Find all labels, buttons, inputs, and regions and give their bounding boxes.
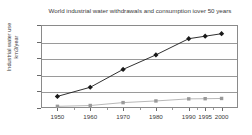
x-tick-mark	[90, 108, 91, 111]
series-layer	[41, 25, 238, 108]
x-tick-label: 2000	[205, 113, 239, 120]
data-point-square	[220, 97, 223, 100]
x-tick-mark	[57, 108, 58, 111]
x-tick-mark	[156, 108, 157, 111]
chart-title: World industrial water withdrawals and c…	[34, 7, 246, 14]
x-tick-mark	[205, 108, 206, 111]
x-tick-label: 1970	[106, 113, 140, 120]
data-point-square	[89, 104, 92, 107]
series-line	[57, 34, 221, 97]
x-tick-label: 1960	[73, 113, 107, 120]
data-point-diamond	[153, 52, 158, 57]
x-minor-tick-mark	[74, 108, 75, 110]
x-tick-mark	[189, 108, 190, 111]
data-point-square	[121, 101, 124, 104]
y-axis-title-line1: Industrial water use	[6, 23, 12, 72]
y-axis-title: Industrial water use km3/year	[6, 4, 20, 90]
x-minor-tick-mark	[107, 108, 108, 110]
data-point-diamond	[203, 34, 208, 39]
data-point-diamond	[186, 36, 191, 41]
data-point-diamond	[219, 31, 224, 36]
data-point-square	[187, 97, 190, 100]
x-tick-label: 1950	[40, 113, 74, 120]
data-point-square	[154, 99, 157, 102]
data-point-diamond	[55, 94, 60, 99]
x-tick-label: 1980	[139, 113, 173, 120]
x-minor-tick-mark	[197, 108, 198, 110]
y-tick-mark	[37, 108, 41, 109]
x-minor-tick-mark	[172, 108, 173, 110]
data-point-square	[203, 97, 206, 100]
x-minor-tick-mark	[140, 108, 141, 110]
y-axis-title-line2: km3/year	[13, 4, 20, 90]
series-line	[57, 98, 221, 106]
data-point-diamond	[120, 67, 125, 72]
x-tick-mark	[222, 108, 223, 111]
x-tick-mark	[123, 108, 124, 111]
x-minor-tick-mark	[213, 108, 214, 110]
data-point-diamond	[88, 85, 93, 90]
chart-container: World industrial water withdrawals and c…	[0, 0, 252, 135]
